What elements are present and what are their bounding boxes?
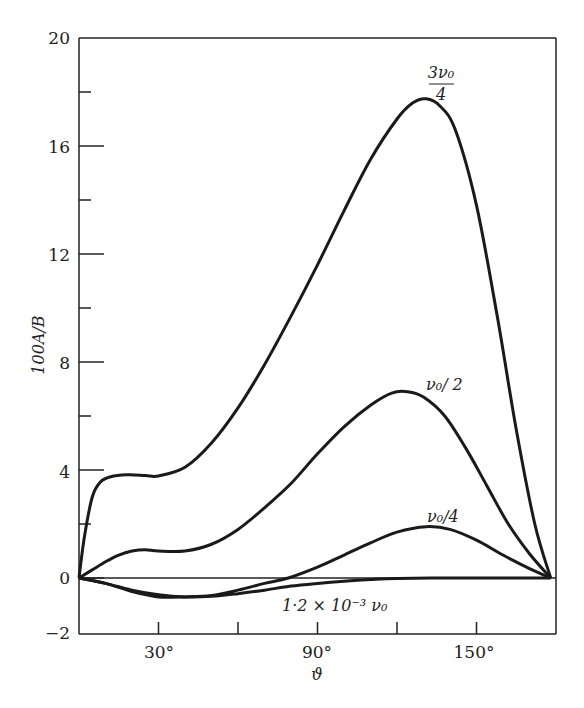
- y-tick-label: 16: [48, 137, 70, 157]
- curve-label-v0-4: ν₀/4: [427, 507, 459, 526]
- curve-label-3v0-4-denominator: 4: [435, 85, 446, 104]
- x-axis-ticks: [159, 622, 477, 634]
- y-tick-label: 8: [59, 353, 70, 373]
- y-tick-label: −2: [45, 623, 70, 643]
- chart: 20 16 12 8 4 0 −2 30° 90° 150° 100A/B ϑ …: [0, 0, 584, 708]
- curve-label-small: 1·2 × 10⁻³ ν₀: [282, 596, 388, 615]
- x-tick-label: 90°: [302, 642, 332, 662]
- curve-3v0-4: [79, 99, 551, 578]
- curve-label-v0-2: ν₀/ 2: [426, 375, 463, 394]
- curve-1-2e-3-v0: [79, 578, 551, 597]
- curve-v0-4: [79, 527, 551, 598]
- curve-labels: 3ν₀ 4 ν₀/ 2 ν₀/4 1·2 × 10⁻³ ν₀: [282, 63, 463, 615]
- curves: [79, 99, 551, 598]
- y-tick-labels: 20 16 12 8 4 0 −2: [45, 28, 70, 643]
- y-tick-label: 0: [59, 568, 70, 588]
- x-tick-label: 30°: [144, 642, 174, 662]
- x-tick-labels: 30° 90° 150°: [144, 642, 495, 662]
- y-tick-label: 4: [59, 462, 70, 482]
- curve-label-3v0-4-numerator: 3ν₀: [428, 63, 455, 82]
- curve-v0-2: [79, 391, 551, 578]
- y-tick-label: 12: [48, 245, 70, 265]
- x-tick-label: 150°: [454, 642, 495, 662]
- y-axis-title: 100A/B: [29, 315, 48, 374]
- y-tick-label: 20: [48, 28, 70, 48]
- x-axis-title: ϑ: [311, 665, 322, 684]
